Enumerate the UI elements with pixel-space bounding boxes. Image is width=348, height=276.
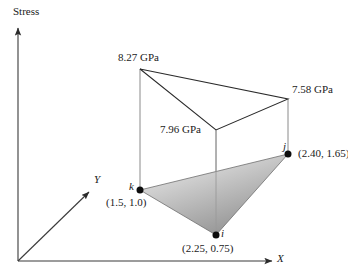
stress-element-figure: Stress X Y 8.27 GPa 7.58 GPa 7.96 GPa k … xyxy=(0,0,348,276)
y-axis-label: Y xyxy=(94,174,100,185)
node-letter-k: k xyxy=(129,181,134,192)
node-letter-j: j xyxy=(283,141,286,152)
x-axis-label: X xyxy=(277,253,284,264)
node-coord-k: (1.5, 1.0) xyxy=(106,197,146,208)
y-axis-line xyxy=(18,192,89,261)
stress-plane-outline xyxy=(140,69,288,130)
node-coord-j: (2.40, 1.65) xyxy=(298,148,348,159)
stress-value-k: 8.27 GPa xyxy=(118,52,159,63)
stress-plane-triangle xyxy=(140,69,288,130)
node-dot-i[interactable] xyxy=(213,232,220,239)
stress-value-j: 7.58 GPa xyxy=(292,84,333,95)
element-face xyxy=(140,154,288,235)
stress-value-i: 7.96 GPa xyxy=(160,124,201,135)
stress-axis-label: Stress xyxy=(13,6,39,17)
node-dot-k[interactable] xyxy=(137,187,144,194)
node-letter-i: i xyxy=(221,228,224,239)
node-coord-i: (2.25, 0.75) xyxy=(182,243,233,254)
figure-canvas xyxy=(0,0,348,276)
element-triangle xyxy=(140,154,288,235)
